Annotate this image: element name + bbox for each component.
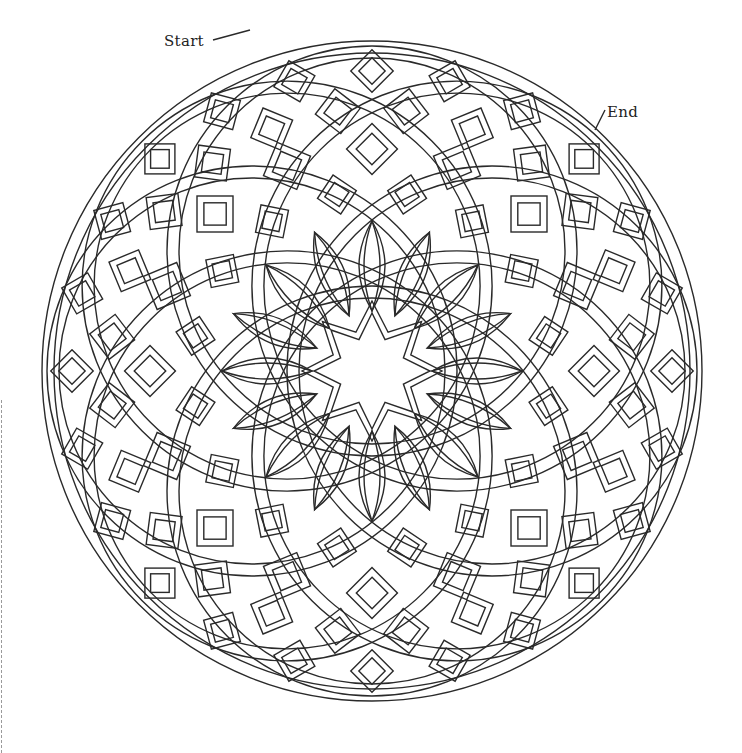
- tile-square: [569, 346, 620, 397]
- tile-square: [529, 387, 568, 426]
- tile-square: [384, 608, 429, 653]
- center-star-inner: [314, 313, 430, 429]
- tile-square: [451, 592, 493, 634]
- tile-inner-square: [356, 133, 388, 165]
- tile-square: [384, 89, 429, 134]
- tile-inner-square: [324, 617, 352, 645]
- tile-inner-square: [359, 658, 385, 684]
- tile-inner-square: [575, 150, 594, 169]
- tile-inner-square: [152, 441, 181, 470]
- tile-inner-square: [601, 458, 627, 484]
- tile-inner-square: [518, 517, 540, 539]
- tile-inner-square: [459, 600, 485, 626]
- tile-inner-square: [563, 441, 592, 470]
- tile-inner-square: [212, 261, 232, 281]
- tile-inner-square: [618, 323, 646, 351]
- tile-inner-square: [601, 258, 627, 284]
- ring-circle: [252, 81, 662, 491]
- tile-inner-square: [392, 617, 420, 645]
- tile-square: [109, 450, 151, 492]
- tile-inner-square: [356, 577, 388, 609]
- tile-square: [125, 346, 176, 397]
- tile-square: [145, 568, 175, 598]
- tile-square: [197, 196, 233, 232]
- ring-circle: [167, 46, 577, 456]
- start-leader-line: [213, 30, 250, 40]
- tile-inner-square: [204, 203, 226, 225]
- tile-inner-square: [442, 151, 471, 180]
- tile-inner-square: [459, 116, 485, 142]
- tile-inner-square: [618, 391, 646, 419]
- tile-square: [451, 108, 493, 150]
- tile-inner-square: [659, 358, 685, 384]
- tile-inner-square: [98, 391, 126, 419]
- tile-inner-square: [442, 562, 471, 591]
- tile-square: [347, 568, 398, 619]
- tile-inner-square: [151, 574, 170, 593]
- end-leader-line: [595, 110, 605, 130]
- outer-rim-inner: [54, 53, 690, 689]
- tile-square: [51, 350, 93, 392]
- tile-inner-square: [518, 203, 540, 225]
- tile-square: [315, 89, 360, 134]
- center-star: [302, 301, 442, 441]
- tile-square: [593, 450, 635, 492]
- ring-circle: [47, 166, 457, 576]
- tile-inner-square: [578, 355, 610, 387]
- tile-square: [511, 510, 547, 546]
- tile-inner-square: [575, 574, 594, 593]
- tile-square: [145, 144, 175, 174]
- tile-square: [609, 314, 654, 359]
- tile-inner-square: [59, 358, 85, 384]
- tile-square: [109, 250, 151, 292]
- start-label: Start: [164, 32, 204, 50]
- tile-inner-square: [272, 151, 301, 180]
- ring-circle: [82, 251, 492, 661]
- tile-square: [529, 316, 568, 355]
- tile-square: [351, 50, 393, 92]
- tile-inner-square: [392, 97, 420, 125]
- tile-square: [347, 124, 398, 175]
- tile-inner-square: [259, 116, 285, 142]
- tile-square: [251, 108, 293, 150]
- tile-inner-square: [562, 271, 591, 300]
- tile-inner-square: [325, 535, 349, 559]
- tile-square: [176, 387, 215, 426]
- tile-square: [90, 314, 135, 359]
- tile-square: [351, 650, 393, 692]
- tile-square: [651, 350, 693, 392]
- tile-inner-square: [259, 600, 285, 626]
- tile-inner-square: [117, 458, 143, 484]
- tile-square: [90, 383, 135, 428]
- ring-circle: [252, 251, 662, 661]
- tile-inner-square: [359, 58, 385, 84]
- tile-inner-square: [324, 97, 352, 125]
- tile-inner-square: [151, 150, 170, 169]
- tile-inner-square: [204, 517, 226, 539]
- tile-inner-square: [272, 562, 301, 591]
- tile-square: [511, 196, 547, 232]
- tile-square: [176, 316, 215, 355]
- tile-square: [317, 528, 356, 567]
- tile-square: [315, 608, 360, 653]
- tile-square: [569, 144, 599, 174]
- tile-square: [593, 250, 635, 292]
- ring-circle: [82, 81, 492, 491]
- tile-inner-square: [117, 258, 143, 284]
- tile-square: [197, 510, 233, 546]
- coloring-page: Start End: [0, 0, 742, 753]
- tile-square: [388, 175, 427, 214]
- outer-rim: [42, 41, 702, 701]
- tile-square: [569, 568, 599, 598]
- tile-inner-square: [98, 323, 126, 351]
- end-label: End: [607, 103, 638, 121]
- tile-inner-square: [134, 355, 166, 387]
- tile-inner-square: [152, 271, 181, 300]
- tile-square: [609, 383, 654, 428]
- tile-square: [317, 175, 356, 214]
- ring-circle: [167, 286, 577, 696]
- tile-square: [388, 528, 427, 567]
- ring-circle: [287, 166, 697, 576]
- tile-square: [251, 592, 293, 634]
